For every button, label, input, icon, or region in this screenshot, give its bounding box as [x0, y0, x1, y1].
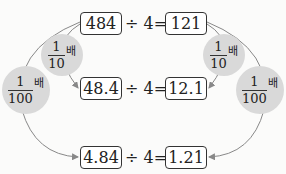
fraction: 1100	[8, 75, 33, 106]
denominator: 10	[48, 57, 65, 71]
fraction: 110	[48, 40, 65, 71]
times-suffix: 배	[228, 42, 238, 58]
dividend-box-row1: 484	[80, 12, 122, 35]
divisor: 4	[144, 79, 154, 98]
label-left-outer: 1100배	[2, 66, 50, 114]
quotient-value: 121	[171, 14, 202, 33]
quotient-box-row3: 1.21	[165, 146, 207, 169]
label-right-inner: 110배	[203, 34, 245, 76]
quotient-box-row2: 12.1	[165, 77, 207, 100]
numerator: 1	[250, 75, 258, 89]
denominator: 100	[242, 92, 267, 106]
numerator: 1	[214, 40, 222, 54]
dividend-value: 48.4	[83, 79, 119, 98]
label-left-inner: 110배	[41, 34, 83, 76]
equation-ops-row2: ÷ 4=	[125, 77, 167, 100]
divisor: 4	[144, 148, 154, 167]
fraction: 110	[210, 40, 227, 71]
times-suffix: 배	[268, 74, 278, 90]
divide-sign: ÷	[125, 14, 138, 33]
dividend-box-row3: 4.84	[80, 146, 122, 169]
quotient-box-row1: 121	[165, 12, 207, 35]
divide-sign: ÷	[125, 148, 138, 167]
equation-ops-row3: ÷ 4=	[125, 146, 167, 169]
dividend-box-row2: 48.4	[80, 77, 122, 100]
times-suffix: 배	[66, 42, 76, 58]
numerator: 1	[16, 75, 24, 89]
divide-sign: ÷	[125, 79, 138, 98]
fraction: 1100	[242, 75, 267, 106]
denominator: 10	[210, 57, 227, 71]
label-right-outer: 1100배	[236, 66, 284, 114]
dividend-value: 484	[86, 14, 117, 33]
quotient-value: 1.21	[168, 148, 204, 167]
denominator: 100	[8, 92, 33, 106]
numerator: 1	[52, 40, 60, 54]
equation-ops-row1: ÷ 4=	[125, 12, 167, 35]
dividend-value: 4.84	[83, 148, 119, 167]
quotient-value: 12.1	[168, 79, 204, 98]
times-suffix: 배	[34, 74, 44, 90]
divisor: 4	[144, 14, 154, 33]
